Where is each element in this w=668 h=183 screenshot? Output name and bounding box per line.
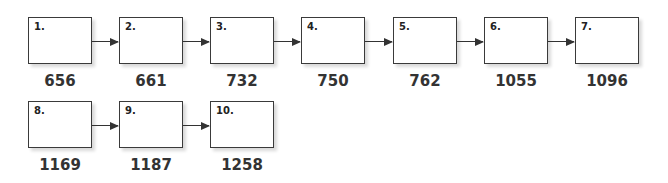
step-number: 5. bbox=[399, 21, 410, 32]
flow-box: 8. bbox=[28, 101, 92, 148]
flow-box: 2. bbox=[119, 17, 183, 64]
arrow-right-icon bbox=[274, 41, 300, 42]
step-number: 7. bbox=[581, 21, 592, 32]
flow-box: 1. bbox=[28, 17, 92, 64]
step-number: 6. bbox=[490, 21, 501, 32]
arrow-right-icon bbox=[92, 125, 118, 126]
flow-box: 5. bbox=[393, 17, 457, 64]
flow-box: 3. bbox=[210, 17, 274, 64]
arrow-right-icon bbox=[548, 41, 574, 42]
step-number: 4. bbox=[307, 21, 318, 32]
step-number: 10. bbox=[216, 105, 234, 116]
step-number: 2. bbox=[125, 21, 136, 32]
arrow-right-icon bbox=[183, 125, 209, 126]
flow-box: 6. bbox=[484, 17, 548, 64]
step-value: 762 bbox=[393, 72, 457, 90]
step-value: 1187 bbox=[119, 156, 183, 174]
arrow-right-icon bbox=[92, 41, 118, 42]
step-value: 1055 bbox=[484, 72, 548, 90]
step-value: 750 bbox=[301, 72, 365, 90]
step-value: 1096 bbox=[575, 72, 639, 90]
flow-box: 10. bbox=[210, 101, 274, 148]
arrow-right-icon bbox=[183, 41, 209, 42]
arrow-right-icon bbox=[365, 41, 392, 42]
step-value: 661 bbox=[119, 72, 183, 90]
step-number: 9. bbox=[125, 105, 136, 116]
step-value: 732 bbox=[210, 72, 274, 90]
step-number: 1. bbox=[34, 21, 45, 32]
step-value: 1258 bbox=[210, 156, 274, 174]
flow-box: 9. bbox=[119, 101, 183, 148]
step-value: 656 bbox=[28, 72, 92, 90]
step-value: 1169 bbox=[28, 156, 92, 174]
step-number: 3. bbox=[216, 21, 227, 32]
arrow-right-icon bbox=[457, 41, 483, 42]
flow-box: 7. bbox=[575, 17, 639, 64]
step-number: 8. bbox=[34, 105, 45, 116]
flow-box: 4. bbox=[301, 17, 365, 64]
